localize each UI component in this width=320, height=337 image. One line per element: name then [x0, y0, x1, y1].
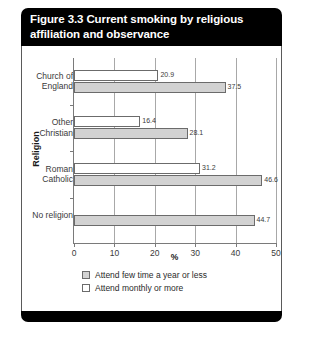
y-axis-category-label: Church of England: [28, 71, 73, 92]
bar: [74, 128, 188, 139]
legend-item: Attend few time a year or less: [82, 270, 272, 280]
bar: [74, 116, 140, 127]
bar-value-label: 44.7: [257, 216, 271, 223]
bar-value-label: 31.2: [202, 164, 216, 171]
plot-area: 0102030405020.937.516.428.131.246.644.7: [73, 58, 276, 244]
x-axis-tick: [74, 243, 75, 247]
y-axis-category-labels: Church of EnglandOther ChristianRoman Ca…: [28, 58, 73, 244]
figure-footer: [21, 311, 282, 322]
x-axis-tick: [236, 243, 237, 247]
bar: [74, 163, 200, 174]
y-axis-category-label: No religion: [28, 210, 73, 221]
legend-label: Attend monthly or more: [95, 283, 183, 293]
figure-header: Figure 3.3 Current smoking by religious …: [21, 8, 282, 46]
legend-item: Attend monthly or more: [82, 283, 272, 293]
bar-value-label: 28.1: [190, 129, 204, 136]
bar-value-label: 37.5: [228, 83, 242, 90]
bar-value-label: 20.9: [160, 71, 174, 78]
x-axis-tick: [276, 243, 277, 247]
legend-swatch: [82, 271, 90, 279]
x-axis-tick: [195, 243, 196, 247]
y-axis-tick: [70, 198, 74, 199]
bar: [74, 215, 255, 226]
x-axis-tick: [114, 243, 115, 247]
y-axis-tick: [70, 105, 74, 106]
legend-label: Attend few time a year or less: [95, 270, 207, 280]
y-axis-tick: [70, 151, 74, 152]
x-axis-title: %: [73, 252, 276, 262]
bar-value-label: 16.4: [142, 117, 156, 124]
figure-card: Figure 3.3 Current smoking by religious …: [21, 8, 282, 324]
y-axis-category-label: Other Christian: [28, 117, 73, 138]
figure-body: Religion Church of EnglandOther Christia…: [21, 46, 282, 311]
chart-legend: Attend few time a year or lessAttend mon…: [82, 270, 272, 296]
bar: [74, 70, 158, 81]
bar: [74, 175, 262, 186]
x-axis-tick: [155, 243, 156, 247]
gridline: [276, 58, 277, 244]
bar: [74, 82, 226, 93]
bar-value-label: 46.6: [264, 176, 278, 183]
legend-swatch: [82, 284, 90, 292]
y-axis-category-label: Roman Catholic: [28, 164, 73, 185]
figure-title: Figure 3.3 Current smoking by religious …: [30, 12, 273, 41]
